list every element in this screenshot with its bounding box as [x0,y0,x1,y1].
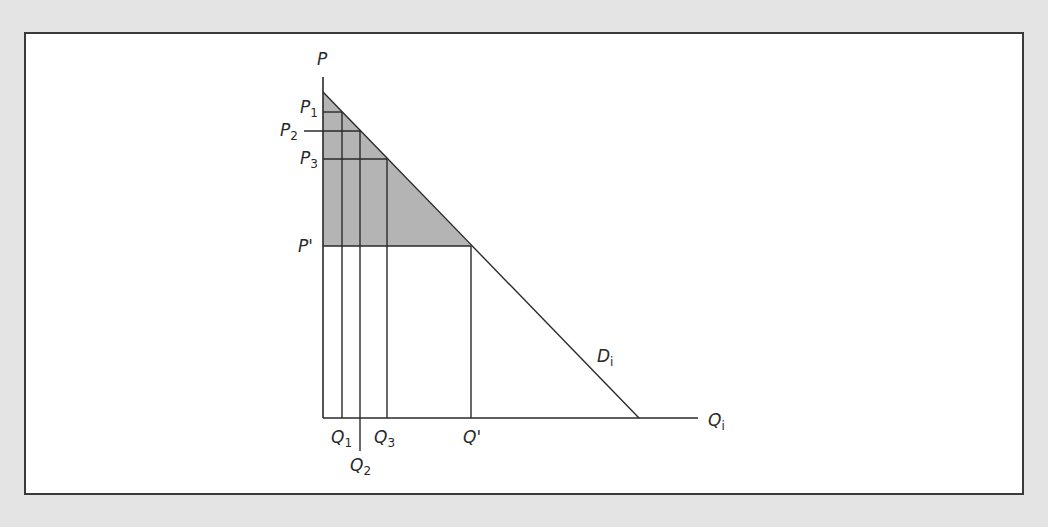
demand-curve-label: Di [597,346,613,369]
x-axis-label: Qi [708,410,725,433]
y-axis-label: P [317,49,328,69]
p3-label: P3 [300,148,318,171]
demand-chart: P P1 P2 P3 P' Q1 Q2 Q3 Q' Qi Di [0,0,1048,527]
demand-curve [323,92,639,418]
p2-label: P2 [280,120,298,143]
p-prime-label: P' [298,236,313,256]
p1-label: P1 [300,97,318,120]
q2-label: Q2 [350,455,371,478]
q1-label: Q1 [331,427,352,450]
q3-label: Q3 [374,427,395,450]
q-prime-label: Q' [463,427,481,447]
